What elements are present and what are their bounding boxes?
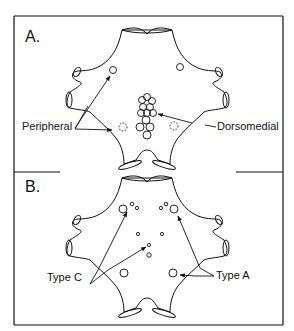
type-a-cell xyxy=(169,269,177,277)
peripheral-cell-dashed xyxy=(170,122,178,130)
type-c-cell xyxy=(159,206,162,209)
type-c-cell xyxy=(147,243,150,246)
type-c-cell xyxy=(136,232,139,235)
type-c-cell xyxy=(135,206,138,209)
label-dorsomedial: Dorsomedial xyxy=(217,120,279,132)
type-a-cell xyxy=(170,205,178,213)
type-c-cell xyxy=(160,232,163,235)
peripheral-cell xyxy=(110,67,117,74)
label-type-a: Type A xyxy=(216,269,250,281)
type-c-cell xyxy=(130,202,134,206)
ganglion-outline-b xyxy=(66,176,229,319)
label-type-c: Type C xyxy=(47,271,82,283)
panel-b-label: B. xyxy=(25,178,40,195)
type-c-cell xyxy=(147,253,151,257)
figure-canvas: A. Peripheral Dorsomedial B. xyxy=(0,0,294,331)
panel-a: A. Peripheral Dorsomedial xyxy=(22,28,279,171)
peripheral-cell-dashed xyxy=(119,123,127,131)
panel-b: B. Type C Type A xyxy=(25,176,250,319)
type-c-cell xyxy=(164,202,168,206)
type-a-cell xyxy=(119,205,127,213)
peripheral-cell xyxy=(177,64,184,71)
label-peripheral: Peripheral xyxy=(22,120,72,132)
dorsomedial-cluster xyxy=(136,94,157,140)
type-a-cell xyxy=(120,269,128,277)
ganglion-outline-a xyxy=(66,28,229,171)
panel-a-label: A. xyxy=(25,28,40,45)
